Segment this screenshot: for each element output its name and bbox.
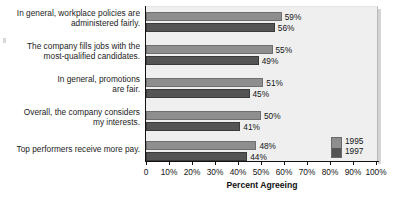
x-tick <box>353 161 354 165</box>
x-tick <box>307 161 308 165</box>
x-tick <box>146 161 147 165</box>
x-tick <box>215 161 216 165</box>
x-tick-label: 80% <box>322 167 339 177</box>
legend-swatch-1995 <box>332 138 341 148</box>
bar-value-label: 49% <box>262 57 279 66</box>
x-tick-label: 100% <box>365 167 386 177</box>
x-tick-label: 40% <box>230 167 247 177</box>
category-axis-labels: In general, workplace policies areadmini… <box>0 0 143 160</box>
x-tick <box>261 161 262 165</box>
x-tick <box>284 161 285 165</box>
legend-swatch-1997 <box>332 148 341 158</box>
x-axis-title: Percent Agreeing <box>145 180 379 190</box>
category-label: Overall, the company considersmy interes… <box>0 108 140 127</box>
x-tick <box>376 161 377 165</box>
category-label: The company fills jobs with themost-qual… <box>0 42 140 61</box>
bar-1997 <box>146 89 250 98</box>
bar-value-label: 59% <box>285 13 302 22</box>
x-tick <box>330 161 331 165</box>
bar-value-label: 48% <box>259 142 276 151</box>
x-tick-label: 90% <box>345 167 362 177</box>
bar-value-label: 56% <box>278 24 295 33</box>
plot-shadow <box>378 9 381 164</box>
x-tick <box>169 161 170 165</box>
bar-1995 <box>146 12 282 21</box>
legend-label-1995: 1995 <box>345 136 363 146</box>
x-tick-label: 70% <box>299 167 316 177</box>
legend-swatch-box <box>331 137 342 158</box>
legend-label-1997: 1997 <box>345 146 363 156</box>
bar-value-label: 51% <box>266 79 283 88</box>
bar-1995 <box>146 111 261 120</box>
bar-value-label: 50% <box>264 112 281 121</box>
x-tick-label: 30% <box>207 167 224 177</box>
bar-1997 <box>146 56 259 65</box>
bar-value-label: 44% <box>250 153 267 162</box>
x-tick-label: 10% <box>161 167 178 177</box>
bar-1995 <box>146 141 256 150</box>
x-tick-label: 20% <box>184 167 201 177</box>
bar-value-label: 41% <box>243 123 260 132</box>
bar-value-label: 55% <box>276 46 293 55</box>
x-tick-label: 0 <box>144 167 149 177</box>
bar-1997 <box>146 23 275 32</box>
category-label: Top performers receive more pay. <box>0 145 140 155</box>
bar-1997 <box>146 122 240 131</box>
x-tick <box>238 161 239 165</box>
bar-1995 <box>146 78 263 87</box>
bar-1997 <box>146 152 247 161</box>
bar-chart: In general, workplace policies areadmini… <box>0 0 401 201</box>
category-label: In general, workplace policies areadmini… <box>0 9 140 28</box>
x-tick-label: 60% <box>276 167 293 177</box>
bar-value-label: 45% <box>253 90 270 99</box>
category-label: In general, promotionsare fair. <box>0 75 140 94</box>
x-tick <box>192 161 193 165</box>
legend: 1995 1997 <box>331 136 377 159</box>
bar-1995 <box>146 45 273 54</box>
x-tick-label: 50% <box>253 167 270 177</box>
